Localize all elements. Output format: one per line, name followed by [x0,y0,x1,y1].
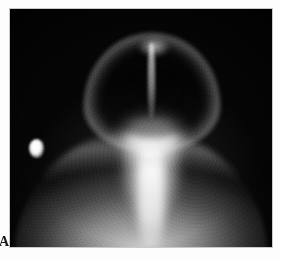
panel-label: A [0,235,9,249]
field-vignette-overlay [10,9,272,247]
scintigraphy-scan-image [10,9,272,247]
figure-panel: A [0,0,281,260]
